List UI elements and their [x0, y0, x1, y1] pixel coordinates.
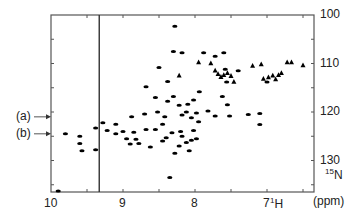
peak-ellipse: [153, 128, 158, 131]
y-tick-label: 110: [320, 56, 339, 70]
peak-triangle: [208, 61, 213, 66]
peak-ellipse: [197, 90, 202, 93]
peak-ellipse: [177, 104, 182, 107]
x-axis-nucleus: H: [274, 197, 283, 211]
peak-ellipse: [148, 145, 153, 148]
peak-ellipse: [153, 96, 158, 99]
peak-ellipse: [128, 143, 133, 146]
peak-triangle: [231, 79, 236, 84]
peak-ellipse: [93, 148, 98, 151]
peak-ellipse: [187, 149, 192, 152]
peak-ellipse: [225, 103, 230, 106]
peak-ellipse: [227, 114, 232, 117]
peak-ellipse: [246, 113, 251, 116]
peak-ellipse: [171, 50, 176, 53]
peak-ellipse: [124, 137, 129, 140]
peak-ellipse: [93, 127, 98, 130]
peak-ellipse: [56, 190, 61, 193]
peak-ellipse: [160, 140, 165, 143]
arrow-head-icon: [46, 131, 51, 136]
peak-ellipse: [133, 138, 138, 141]
peak-ellipse: [179, 113, 184, 116]
peak-ellipse: [178, 130, 183, 133]
peak-ellipse: [164, 136, 169, 139]
peak-ellipse: [100, 121, 105, 124]
peak-ellipse: [142, 112, 147, 115]
peak-ellipse: [160, 123, 165, 126]
peak-ellipse: [184, 141, 189, 144]
peak-triangle: [225, 70, 230, 75]
peak-ellipse: [113, 123, 118, 126]
peak-ellipse: [189, 139, 194, 142]
peak-ellipse: [129, 115, 134, 118]
peak-ellipse: [63, 132, 68, 135]
x-tick-label: 9: [119, 196, 126, 210]
peak-ellipse: [194, 137, 199, 140]
peak-ellipse: [257, 112, 262, 115]
peak-triangle: [196, 60, 201, 65]
peaks-layer: [56, 25, 306, 193]
peak-ellipse: [172, 25, 177, 28]
peak-triangle: [259, 61, 264, 66]
peak-triangle: [279, 70, 284, 75]
peak-triangle: [213, 68, 218, 73]
x-axis-label: 1H: [270, 197, 283, 211]
peak-ellipse: [177, 144, 182, 147]
peak-ellipse: [79, 149, 84, 152]
peak-ellipse: [194, 111, 199, 114]
peak-ellipse: [155, 111, 160, 114]
y-tick-label: 130: [320, 153, 340, 167]
peak-ellipse: [143, 85, 148, 88]
y-axis-isotope: 15: [325, 167, 334, 176]
x-tick-label: 10: [44, 196, 57, 210]
plot-frame: [51, 15, 314, 192]
peak-ellipse: [165, 80, 170, 83]
peak-ellipse: [136, 142, 141, 145]
peak-triangle: [266, 75, 271, 80]
peak-ellipse: [77, 135, 82, 138]
peak-ellipse: [105, 129, 110, 132]
peak-ellipse: [131, 131, 136, 134]
peak-ellipse: [205, 110, 210, 113]
peak-ellipse: [191, 129, 196, 132]
annotation-label: (b): [16, 126, 31, 140]
peak-ellipse: [184, 111, 189, 114]
peak-ellipse: [189, 116, 194, 119]
peak-ellipse: [201, 51, 206, 54]
peak-ellipse: [196, 120, 201, 123]
y-axis-nucleus: N: [334, 168, 343, 182]
y-tick-label: 100: [320, 7, 340, 21]
peak-ellipse: [179, 135, 184, 138]
peak-ellipse: [224, 80, 229, 83]
peak-triangle: [301, 62, 306, 67]
nmr-spectrum-plot: [0, 0, 356, 222]
annotation-arrows: [34, 114, 51, 136]
peak-ellipse: [171, 95, 176, 98]
peak-ellipse: [185, 103, 190, 106]
peak-ellipse: [120, 130, 125, 133]
peak-ellipse: [156, 66, 161, 69]
x-tick-label: 7: [263, 196, 270, 210]
arrow-head-icon: [46, 114, 51, 119]
peak-triangle: [261, 76, 266, 81]
peak-ellipse: [162, 115, 167, 118]
peak-ellipse: [113, 132, 118, 135]
peak-ellipse: [213, 55, 218, 58]
peak-ellipse: [257, 123, 262, 126]
axis-ticks: [51, 15, 314, 192]
peak-ellipse: [213, 114, 218, 117]
peak-ellipse: [223, 68, 228, 71]
peak-triangle: [270, 73, 275, 78]
peak-ellipse: [221, 51, 226, 54]
peak-ellipse: [264, 80, 269, 83]
peak-ellipse: [236, 69, 241, 72]
peak-ellipse: [77, 142, 82, 145]
peak-ellipse: [165, 100, 170, 103]
peak-ellipse: [169, 131, 174, 134]
annotation-label: (a): [16, 109, 31, 123]
peak-ellipse: [220, 95, 225, 98]
peak-ellipse: [191, 98, 196, 101]
x-tick-label: 8: [191, 196, 198, 210]
peak-ellipse: [172, 152, 177, 155]
y-tick-label: 120: [320, 104, 340, 118]
